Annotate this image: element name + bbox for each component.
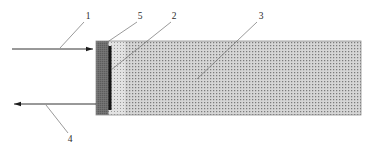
ref-label-1: 1 — [86, 11, 91, 21]
ref-label-4: 4 — [68, 134, 73, 144]
leader-line-5 — [106, 22, 137, 43]
inner-black-bar — [108, 46, 111, 110]
main-body-medium — [125, 41, 361, 115]
flow-arrows — [12, 49, 96, 104]
ref-label-2: 2 — [172, 11, 177, 21]
ref-label-3: 3 — [259, 11, 264, 21]
outer-dark-layer — [96, 41, 109, 115]
diagram-body — [96, 41, 361, 115]
ref-label-5: 5 — [138, 11, 143, 21]
technical-diagram: 1 5 2 3 4 — [0, 0, 377, 150]
leader-line-4 — [46, 105, 68, 133]
figure-container: 1 5 2 3 4 — [0, 0, 377, 150]
leader-line-1 — [60, 22, 84, 48]
